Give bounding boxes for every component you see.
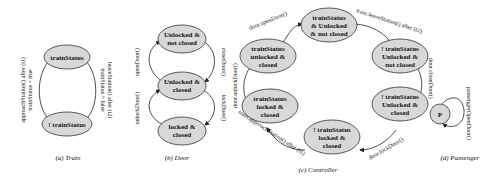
caption: (b) Door xyxy=(165,154,190,162)
state-label: trainStatus xyxy=(312,14,346,22)
caption: (d) Passenger xyxy=(440,154,479,162)
approach-station-edge xyxy=(39,58,52,122)
controller-diagram: trainStatus & Unlocked & not closed ! tr… xyxy=(232,7,434,174)
state-label: not closed xyxy=(385,61,415,69)
edge-label: train.leaveStation() after (t2) xyxy=(355,7,423,35)
door-diagram: Unlocked & not closed Unlocked & closed … xyxy=(134,25,227,162)
state-label: closed xyxy=(391,109,409,117)
state-label: closed xyxy=(261,111,279,119)
state-label: Unlocked & xyxy=(164,78,200,86)
edge-label: door.unlockDoor() xyxy=(232,63,239,108)
caption: (c) Controller xyxy=(299,166,338,174)
state-label: unlocked & xyxy=(251,53,286,61)
state-label: Unlocked & xyxy=(382,101,418,109)
state-label: trainStatus xyxy=(251,45,285,53)
state-label: & not closed xyxy=(310,30,347,38)
caption: (a) Train xyxy=(55,154,81,162)
edge-label: openDoor() xyxy=(134,48,141,76)
passenger-diagram: P passengerOpenDoor() (d) Passenger xyxy=(430,87,480,162)
state-label: closed xyxy=(323,142,341,150)
state-label: locked & xyxy=(168,123,195,131)
close-door-edge xyxy=(203,41,215,82)
edge-label: approachStation() after (t1) xyxy=(20,57,27,123)
state-label: Unlocked & xyxy=(164,31,200,39)
state-label: & Unlocked xyxy=(311,22,347,30)
state-label: closed xyxy=(173,86,191,94)
state-label: closed xyxy=(173,131,191,139)
open-door-edge xyxy=(149,41,163,82)
edge-label: lockDoor() xyxy=(220,95,227,122)
state-label: locked & xyxy=(318,134,345,142)
state-label: ! trainStatus xyxy=(313,126,351,134)
state-label: Unlocked & xyxy=(382,53,418,61)
lock-door-edge xyxy=(203,90,215,125)
state-label: ! trainStatus xyxy=(381,93,419,101)
state-label: ! trainStatus xyxy=(48,121,86,129)
unlock-door-edge xyxy=(149,90,163,125)
state-label: trainStatus xyxy=(50,54,84,62)
state-label: trainStatus xyxy=(253,95,287,103)
edge-label: trainStatus = false xyxy=(100,68,106,112)
edge-label: leaveStation() after (t2) xyxy=(106,62,113,118)
train-diagram: trainStatus ! trainStatus approachStatio… xyxy=(20,45,113,162)
state-label: locked & xyxy=(256,103,283,111)
state-label: ! trainStatus xyxy=(381,45,419,53)
edge-label: door.openDoor() xyxy=(248,10,288,32)
state-label: closed xyxy=(259,61,277,69)
state-diagrams: trainStatus ! trainStatus approachStatio… xyxy=(0,0,490,179)
edge-label: door.closeDoor() xyxy=(427,58,434,99)
edge-label: closeDoor() xyxy=(220,48,227,77)
edge-label: passengerOpenDoor() xyxy=(465,87,472,140)
edge-label: trainStatus = true xyxy=(27,69,33,111)
leave-station-edge xyxy=(83,58,96,122)
edge-label: unlockDoor() xyxy=(134,92,141,125)
state-label: P xyxy=(438,111,443,119)
state-label: not closed xyxy=(167,39,197,47)
